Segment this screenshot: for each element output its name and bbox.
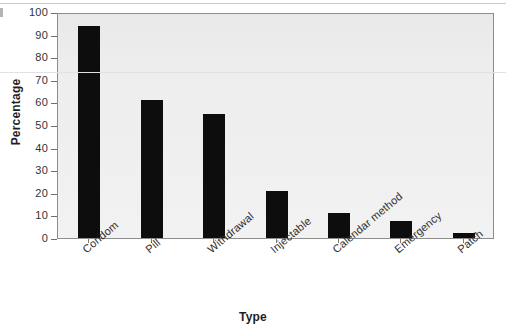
bar-chart-figure: Percentage 0102030405060708090100 Condom… xyxy=(0,0,506,330)
y-axis-tick-label: 80 xyxy=(0,52,48,63)
y-axis-tick-label: 10 xyxy=(0,210,48,221)
bar xyxy=(78,26,100,238)
y-axis-tick-label-text: 30 xyxy=(8,165,48,176)
y-axis-tick-label: 90 xyxy=(0,30,48,41)
page-edge-line xyxy=(0,3,506,4)
y-axis-tick-label-text: 90 xyxy=(8,30,48,41)
y-axis-tick-label-text: 10 xyxy=(8,210,48,221)
y-axis-tick-label: 40 xyxy=(0,143,48,154)
scan-artifact-line xyxy=(0,72,506,73)
y-axis-tick-label-text: 60 xyxy=(8,97,48,108)
x-axis-title: Type xyxy=(0,310,506,324)
y-axis-tick-label: 50 xyxy=(0,120,48,131)
y-axis-tick-label-text: 0 xyxy=(8,233,48,244)
y-axis-tick-label-text: 50 xyxy=(8,120,48,131)
y-axis-tick-label: 0 xyxy=(0,233,48,244)
bar xyxy=(203,114,225,238)
y-axis-tick-label-text: 80 xyxy=(8,52,48,63)
plot-area xyxy=(57,13,494,239)
y-axis-tick-label: 100 xyxy=(0,7,48,18)
y-axis-tick-label: 60 xyxy=(0,97,48,108)
bar xyxy=(141,100,163,238)
y-axis-tick-label: 30 xyxy=(0,165,48,176)
y-axis-tick-label-text: 70 xyxy=(8,75,48,86)
y-axis-tick-label: 70 xyxy=(0,75,48,86)
y-axis-tick-label-text: 40 xyxy=(8,143,48,154)
y-axis-tick-label: 20 xyxy=(0,188,48,199)
y-axis-tick-label-text: 20 xyxy=(8,188,48,199)
y-axis-tick xyxy=(51,239,57,240)
bars-container xyxy=(58,14,493,238)
y-axis-tick-label-text: 100 xyxy=(8,7,48,18)
